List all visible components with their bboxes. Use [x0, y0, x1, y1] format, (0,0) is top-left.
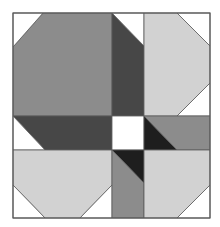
quilt-block-diagram: [0, 0, 220, 227]
quilt-block-svg: [0, 0, 220, 227]
center-white-square: [112, 116, 144, 150]
